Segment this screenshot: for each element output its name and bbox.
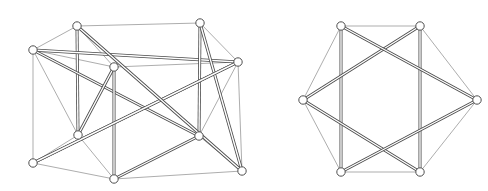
graph-edge-thick-core <box>200 23 242 171</box>
graph-node <box>74 131 82 139</box>
graph-edge-thin <box>420 26 477 100</box>
graph-node <box>337 22 345 30</box>
graph-node <box>299 96 307 104</box>
graph-edge-thin <box>78 135 114 179</box>
graph-node <box>195 132 203 140</box>
graph-edge-thin <box>420 100 477 172</box>
graph-edge-thin <box>33 163 114 179</box>
graph-canvas <box>0 0 488 191</box>
graph-node <box>234 58 242 66</box>
left-thin-edges <box>33 23 242 179</box>
right-thin-edges <box>303 26 477 172</box>
graph-node <box>416 22 424 30</box>
graph-edge-thin <box>114 62 238 67</box>
graph-edge-thick-core <box>114 136 199 179</box>
graph-edge-thin <box>114 171 242 179</box>
graph-node <box>238 167 246 175</box>
graph-node <box>337 168 345 176</box>
graph-node <box>29 46 37 54</box>
graph-edge-thick-core <box>77 26 242 171</box>
left-graph-group <box>29 19 246 183</box>
graph-edge-thin <box>77 23 200 26</box>
graph-node <box>110 175 118 183</box>
graph-edge-thin <box>33 26 77 50</box>
left-thick-edges <box>33 23 242 179</box>
graph-node <box>110 63 118 71</box>
graph-node <box>73 22 81 30</box>
figure-root <box>0 0 488 191</box>
graph-node <box>473 96 481 104</box>
graph-node <box>29 159 37 167</box>
graph-edge-thick-core <box>77 26 78 135</box>
right-graph-group <box>299 22 481 176</box>
graph-node <box>196 19 204 27</box>
left-nodes <box>29 19 246 183</box>
graph-node <box>416 168 424 176</box>
